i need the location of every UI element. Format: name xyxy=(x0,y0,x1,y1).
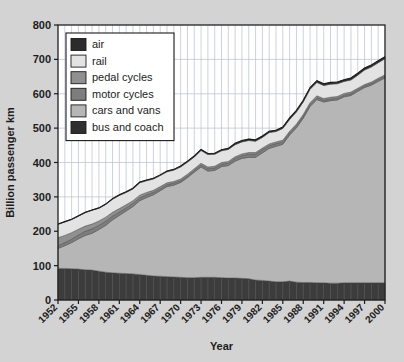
y-tick-label: 700 xyxy=(33,53,51,65)
y-tick-label: 200 xyxy=(33,225,51,237)
y-axis-title: Billion passenger km xyxy=(4,107,16,218)
legend-label: motor cycles xyxy=(92,88,154,100)
stacked-area-chart: 0100200300400500600700800 19521955195819… xyxy=(0,0,404,362)
y-tick-label: 100 xyxy=(33,260,51,272)
y-axis-label: Billion passenger km xyxy=(4,107,16,218)
legend-swatch xyxy=(71,105,86,117)
y-tick-label: 600 xyxy=(33,88,51,100)
x-axis-label: Year xyxy=(210,340,234,352)
legend-swatch xyxy=(71,122,86,134)
legend-swatch xyxy=(71,39,86,51)
chart-figure: 0100200300400500600700800 19521955195819… xyxy=(0,0,404,362)
legend-label: cars and vans xyxy=(92,104,161,116)
legend-label: rail xyxy=(92,55,107,67)
y-tick-label: 400 xyxy=(33,157,51,169)
legend-swatch xyxy=(71,88,86,100)
legend-label: pedal cycles xyxy=(92,71,153,83)
legend-label: air xyxy=(92,38,105,50)
legend-swatch xyxy=(71,55,86,67)
y-tick-label: 500 xyxy=(33,122,51,134)
legend-swatch xyxy=(71,72,86,84)
x-axis-title: Year xyxy=(210,340,234,352)
y-tick-label: 300 xyxy=(33,191,51,203)
y-tick-label: 800 xyxy=(33,19,51,31)
legend-label: bus and coach xyxy=(92,121,164,133)
chart-legend: airrailpedal cyclesmotor cyclescars and … xyxy=(66,33,174,141)
